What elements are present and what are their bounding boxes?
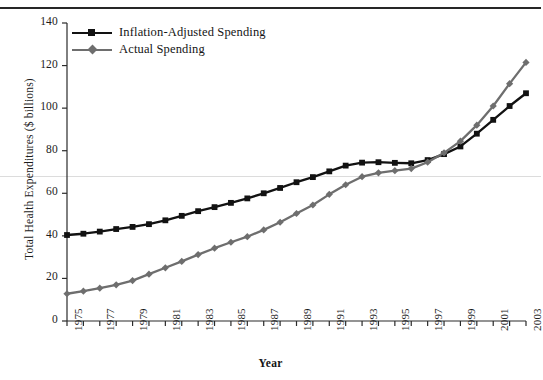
x-tick-label: 1991 [334, 308, 346, 331]
x-tick-label: 2001 [498, 308, 510, 331]
legend-item-actual-spending: Actual Spending [72, 41, 266, 58]
x-tick-label: 1997 [432, 308, 444, 331]
legend-label: Inflation-Adjusted Spending [119, 25, 266, 40]
y-tick-label: 140 [24, 15, 58, 27]
x-tick-label: 1995 [399, 308, 411, 331]
legend-label: Actual Spending [119, 42, 205, 57]
axis-lines [67, 23, 526, 321]
legend-swatch-square-icon [72, 26, 112, 39]
y-tick-label: 0 [24, 313, 58, 325]
x-tick-label: 1979 [137, 308, 149, 331]
x-tick-label: 1983 [203, 308, 215, 331]
x-tick-label: 1999 [465, 308, 477, 331]
y-axis-ticks [62, 23, 67, 321]
x-tick-label: 1987 [268, 308, 280, 331]
chart-legend: Inflation-Adjusted Spending Actual Spend… [72, 24, 266, 58]
series-actual-spending [63, 59, 529, 298]
y-axis-title: Total Health Expenditures ($ billions) [23, 44, 35, 294]
legend-item-inflation-adjusted-spending: Inflation-Adjusted Spending [72, 24, 266, 41]
x-tick-label: 1977 [104, 308, 116, 331]
legend-swatch-diamond-icon [72, 43, 112, 56]
x-tick-label: 1981 [170, 308, 182, 331]
x-tick-label: 1975 [72, 308, 84, 331]
x-axis-ticks [67, 321, 526, 326]
data-series-layer [63, 59, 529, 298]
x-tick-label: 1985 [235, 308, 247, 331]
x-tick-label: 1993 [367, 308, 379, 331]
x-axis-title: Year [0, 357, 541, 369]
x-tick-label: 2003 [531, 308, 543, 331]
x-tick-label: 1989 [301, 308, 313, 331]
